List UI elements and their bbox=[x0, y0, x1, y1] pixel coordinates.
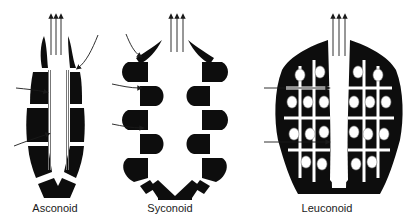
leuconoid-illustration bbox=[240, 0, 414, 222]
body-wall-left bbox=[122, 40, 164, 194]
holdfast bbox=[38, 178, 76, 198]
holdfast bbox=[150, 180, 200, 200]
excurrent-arrows bbox=[51, 16, 61, 55]
asconoid-illustration bbox=[0, 0, 110, 222]
asconoid-label: Asconoid bbox=[0, 202, 110, 214]
syconoid-illustration bbox=[100, 0, 240, 222]
spongocoel bbox=[330, 42, 348, 185]
choanocyte-lining-right bbox=[66, 70, 70, 170]
syconoid-panel: Syconoid bbox=[100, 0, 240, 222]
excurrent-arrows bbox=[171, 16, 183, 52]
choanocyte-lining-left bbox=[48, 70, 52, 170]
body-wall-right bbox=[187, 40, 229, 194]
leuconoid-label: Leuconoid bbox=[240, 202, 414, 214]
asconoid-panel: Asconoid bbox=[0, 0, 110, 222]
sponge-body-plans-diagram: Asconoid bbox=[0, 0, 414, 222]
leuconoid-panel: Leuconoid bbox=[240, 0, 414, 222]
syconoid-label: Syconoid bbox=[100, 202, 240, 214]
